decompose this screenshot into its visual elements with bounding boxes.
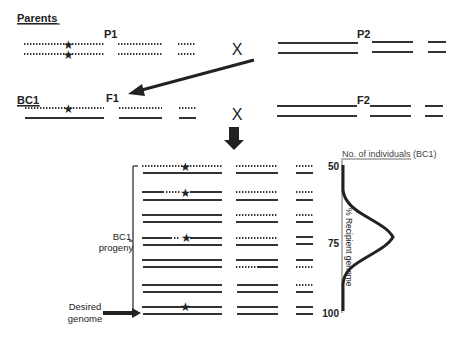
chart-title: No. of individuals (BC1) <box>342 149 437 159</box>
star-icon: ★ <box>180 160 191 174</box>
y-tick-50: 50 <box>328 161 340 172</box>
y-tick-100: 100 <box>322 308 339 319</box>
y-tick-75: 75 <box>328 238 340 249</box>
f2-chromosomes <box>277 106 443 116</box>
star-icon: ★ <box>63 102 74 116</box>
p2-label: P2 <box>357 28 370 40</box>
desired-genome-arrow <box>103 308 141 318</box>
progeny-row-1: ★ <box>142 160 313 174</box>
distribution-chart: No. of individuals (BC1) 50 75 100 % Rec… <box>322 149 436 319</box>
desired-genome-label-line2: genome <box>68 313 102 324</box>
progeny-row-7-desired: ★ <box>142 300 313 314</box>
p1-label: P1 <box>104 28 117 40</box>
section-bc1-label: BC1 <box>17 94 39 106</box>
progeny-row-5 <box>142 260 313 267</box>
p2-chromosomes <box>278 42 446 53</box>
star-icon: ★ <box>180 186 191 200</box>
p1-chromosomes: ★ ★ <box>24 38 196 62</box>
f1-label: F1 <box>106 92 119 104</box>
desired-genome-label-line1: Desired <box>69 301 102 312</box>
star-icon: ★ <box>180 300 191 314</box>
bc1-progeny-label-line2: progeny <box>99 242 134 253</box>
f2-label: F2 <box>357 94 370 106</box>
diagram-canvas: Parents P1 ★ ★ X P2 BC1 F1 <box>0 0 461 340</box>
section-parents-label: Parents <box>17 12 57 24</box>
cross-symbol: X <box>232 106 243 123</box>
bc1-progeny-label-line1: BC1 <box>113 231 131 242</box>
star-icon: ★ <box>63 48 74 62</box>
cross-symbol: X <box>232 41 243 58</box>
progeny-row-2: ★ <box>142 186 313 200</box>
star-icon: ★ <box>181 231 192 245</box>
progeny-row-4: ★ <box>142 231 313 245</box>
arrow-to-f1 <box>128 60 254 96</box>
f1-chromosomes: ★ <box>25 102 196 118</box>
progeny-row-3 <box>142 215 313 222</box>
progeny-row-6 <box>142 285 313 292</box>
down-arrow-icon <box>224 127 244 150</box>
